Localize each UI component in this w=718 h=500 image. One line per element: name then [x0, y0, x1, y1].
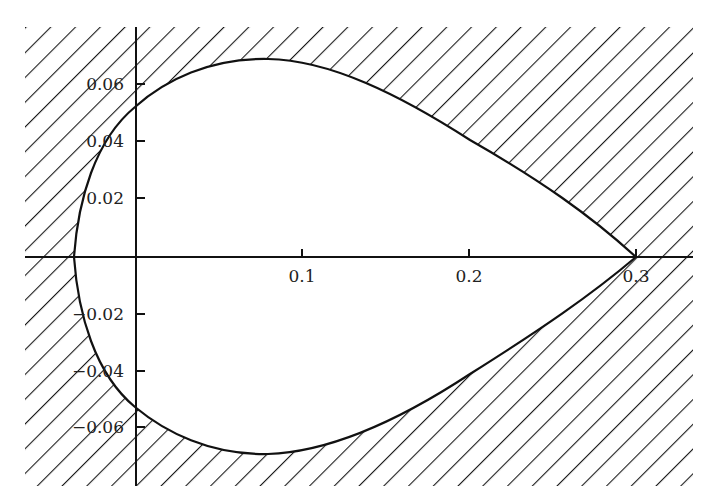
y-tick-label: 0.04 [86, 131, 124, 151]
y-tick-label: −0.06 [72, 417, 124, 437]
x-tick-label: 0.3 [622, 266, 649, 286]
x-tick-label: 0.1 [288, 266, 315, 286]
y-tick-label: −0.02 [72, 304, 124, 324]
y-ticks [136, 84, 145, 427]
x-tick-label: 0.2 [455, 266, 482, 286]
y-tick-label: 0.02 [86, 188, 124, 208]
y-tick-label: −0.04 [72, 361, 124, 381]
chart: 0.1 0.2 0.3 0.06 0.04 0.02 −0.02 −0.04 −… [0, 0, 718, 500]
x-ticks [302, 249, 636, 257]
y-tick-label: 0.06 [86, 74, 124, 94]
